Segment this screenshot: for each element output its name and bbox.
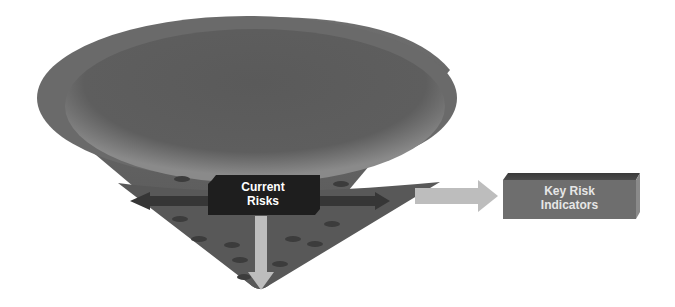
cone-inner-bowl xyxy=(65,29,445,183)
kri-label: Key Risk Indicators xyxy=(503,184,636,212)
kri-box-top xyxy=(503,173,640,180)
kri-line2: Indicators xyxy=(503,198,636,212)
funnel-diagram xyxy=(0,0,675,307)
current-risks-line1: Current xyxy=(208,180,318,194)
current-risks-label: Current Risks xyxy=(208,180,318,208)
kri-line1: Key Risk xyxy=(503,184,636,198)
kri-box-side xyxy=(636,173,640,219)
current-risks-line2: Risks xyxy=(208,194,318,208)
